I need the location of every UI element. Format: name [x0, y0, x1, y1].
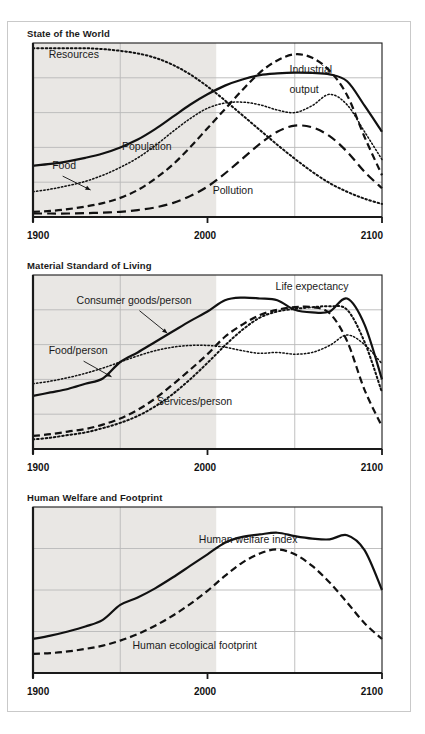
- panel-human-welfare-and-footprint: Human Welfare and Footprint Human welfar…: [8, 488, 412, 711]
- x-tick-2000: 2000: [194, 462, 216, 473]
- x-axis-labels: 1900 2000 2100: [27, 230, 383, 246]
- chart-svg: Human welfare indexHuman ecological foot…: [27, 506, 383, 682]
- x-axis-labels: 1900 2000 2100: [27, 462, 383, 478]
- annotation-population: Population: [122, 140, 172, 152]
- plot-area-human-welfare-and-footprint: Human welfare indexHuman ecological foot…: [27, 506, 383, 682]
- x-tick-1900: 1900: [27, 686, 49, 697]
- annotation-services-per-person: Services/person: [157, 395, 232, 407]
- annotation-industrial-output-line1: Industrial: [290, 63, 333, 75]
- panel-material-standard-of-living: Material Standard of Living Consumer goo…: [8, 256, 412, 488]
- x-tick-2000: 2000: [194, 230, 216, 241]
- plot-area-state-of-the-world: ResourcesIndustrialoutputPopulationFoodP…: [27, 42, 383, 226]
- annotation-food: Food: [52, 159, 76, 171]
- panel-title: State of the World: [27, 28, 110, 39]
- panel-state-of-the-world: State of the World ResourcesIndustrialou…: [8, 24, 412, 256]
- x-tick-1900: 1900: [27, 462, 49, 473]
- figure-container: State of the World ResourcesIndustrialou…: [7, 21, 411, 712]
- annotation-pollution: Pollution: [213, 184, 253, 196]
- plot-area-material-standard-of-living: Consumer goods/personLife expectancyFood…: [27, 274, 383, 458]
- annotation-human-welfare-index: Human welfare index: [199, 533, 298, 545]
- annotation-resources: Resources: [49, 48, 99, 60]
- annotation-life-expectancy: Life expectancy: [276, 280, 350, 292]
- annotation-food-per-person: Food/person: [49, 344, 108, 356]
- x-tick-2000: 2000: [194, 686, 216, 697]
- x-tick-2100: 2100: [361, 230, 383, 241]
- chart-svg: Consumer goods/personLife expectancyFood…: [27, 274, 383, 458]
- x-axis-labels: 1900 2000 2100: [27, 686, 383, 702]
- annotation-consumer-goods-per-person: Consumer goods/person: [77, 294, 192, 306]
- x-tick-2100: 2100: [361, 686, 383, 697]
- history-shading: [33, 43, 216, 217]
- annotation-human-ecological-footprint: Human ecological footprint: [133, 639, 257, 651]
- annotation-industrial-output-line2: output: [290, 83, 319, 95]
- panel-title: Human Welfare and Footprint: [27, 492, 163, 503]
- chart-svg: ResourcesIndustrialoutputPopulationFoodP…: [27, 42, 383, 226]
- x-tick-2100: 2100: [361, 462, 383, 473]
- panel-title: Material Standard of Living: [27, 260, 152, 271]
- x-tick-1900: 1900: [27, 230, 49, 241]
